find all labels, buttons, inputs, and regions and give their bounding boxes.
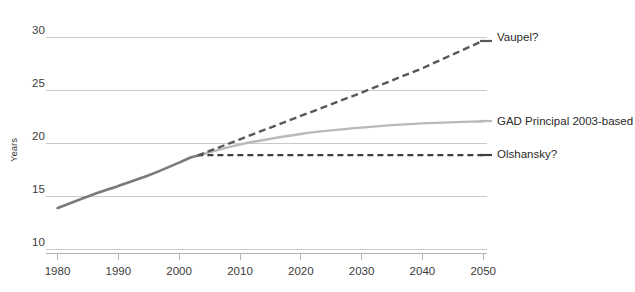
series-line-vaupel [197, 41, 483, 156]
y-axis-tick-labels: 30 25 20 15 10 [32, 24, 45, 248]
x-tick-label-2050: 2050 [470, 265, 496, 277]
series-labels: Vaupel? GAD Principal 2003-based Olshans… [497, 31, 633, 160]
x-axis-tick-labels: 1980 1990 2000 2010 2020 2030 2040 2050 [45, 265, 496, 277]
y-tick-label-20: 20 [32, 130, 45, 142]
y-tick-label-10: 10 [32, 236, 45, 248]
series-lines [58, 41, 484, 208]
y-tick-label-30: 30 [32, 24, 45, 36]
x-axis [46, 254, 487, 260]
x-tick-label-2030: 2030 [349, 265, 375, 277]
series-label-gad: GAD Principal 2003-based [497, 115, 633, 127]
series-label-olshansky: Olshansky? [497, 148, 557, 160]
x-tick-label-2000: 2000 [166, 265, 192, 277]
x-tick-label-2010: 2010 [227, 265, 253, 277]
x-tick-label-1990: 1990 [106, 265, 132, 277]
x-tick-label-2040: 2040 [410, 265, 436, 277]
gridlines [46, 38, 487, 250]
series-line-history [58, 156, 198, 208]
series-label-vaupel: Vaupel? [497, 31, 538, 43]
y-axis-title: Years [8, 138, 19, 162]
chart-container: 30 25 20 15 10 Years 1980 1990 2000 2010… [0, 0, 635, 292]
x-tick-label-1980: 1980 [45, 265, 71, 277]
x-tick-label-2020: 2020 [288, 265, 314, 277]
series-label-stubs [480, 41, 492, 155]
y-tick-label-15: 15 [32, 183, 45, 195]
y-tick-label-25: 25 [32, 77, 45, 89]
life-expectancy-projection-chart: 30 25 20 15 10 Years 1980 1990 2000 2010… [0, 0, 635, 292]
